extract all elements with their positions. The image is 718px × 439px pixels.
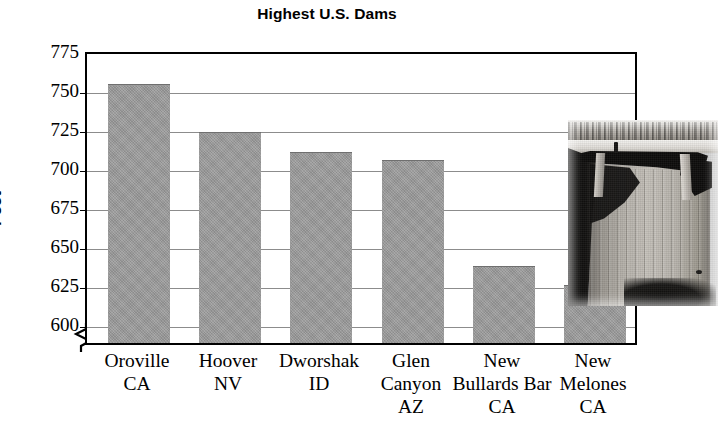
y-tick-label: 775: [33, 42, 79, 61]
y-tick-label: 650: [33, 237, 79, 256]
y-tick-mark: [80, 171, 87, 172]
bar: [199, 132, 261, 343]
y-tick-label: 700: [33, 159, 79, 178]
bar: [473, 266, 535, 343]
bar: [290, 152, 352, 343]
y-tick-mark: [80, 249, 87, 250]
x-axis-label-line: CA: [523, 395, 663, 418]
y-tick-mark: [80, 327, 87, 328]
y-tick-label: 625: [33, 276, 79, 295]
y-axis-tick-labels: 600625650675700725750775: [24, 52, 79, 341]
plot-area: [85, 52, 637, 345]
y-tick-mark: [80, 288, 87, 289]
x-axis-label-line: New: [523, 349, 663, 372]
y-tick-label: 750: [33, 81, 79, 100]
photo-vignette: [568, 120, 718, 306]
bar: [382, 160, 444, 343]
chart-title: Highest U.S. Dams: [0, 5, 654, 23]
x-axis-category-labels: OrovilleCAHooverNVDworshakIDGlenCanyonAZ…: [85, 349, 633, 437]
bar: [108, 84, 170, 343]
y-tick-label: 725: [33, 120, 79, 139]
y-tick-label: 675: [33, 198, 79, 217]
dam-photograph: [568, 120, 718, 306]
x-axis-label: NewMelonesCA: [523, 349, 663, 418]
y-tick-mark: [80, 210, 87, 211]
y-tick-mark: [80, 93, 87, 94]
y-tick-mark: [80, 132, 87, 133]
x-axis-label-line: Melones: [523, 372, 663, 395]
